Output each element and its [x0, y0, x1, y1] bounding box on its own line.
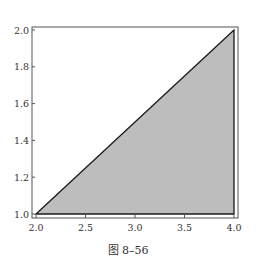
x-tick-label: 2.5: [78, 222, 93, 233]
shaded-region: [36, 30, 234, 214]
y-tick-label: 1.4: [14, 135, 29, 146]
y-tick-label: 2.0: [14, 25, 29, 36]
x-tick-label: 3.0: [127, 222, 142, 233]
y-tick-label: 1.6: [14, 98, 29, 109]
x-tick-label: 4.0: [226, 222, 241, 233]
figure-caption: 图 8–56: [0, 241, 256, 257]
y-tick-label: 1.0: [14, 209, 29, 220]
y-tick-label: 1.2: [14, 172, 29, 183]
chart-figure: 1.01.21.41.61.82.0 2.02.53.03.54.0: [0, 0, 256, 269]
y-tick-label: 1.8: [14, 61, 29, 72]
x-tick-label: 2.0: [28, 222, 43, 233]
x-tick-label: 3.5: [177, 222, 192, 233]
